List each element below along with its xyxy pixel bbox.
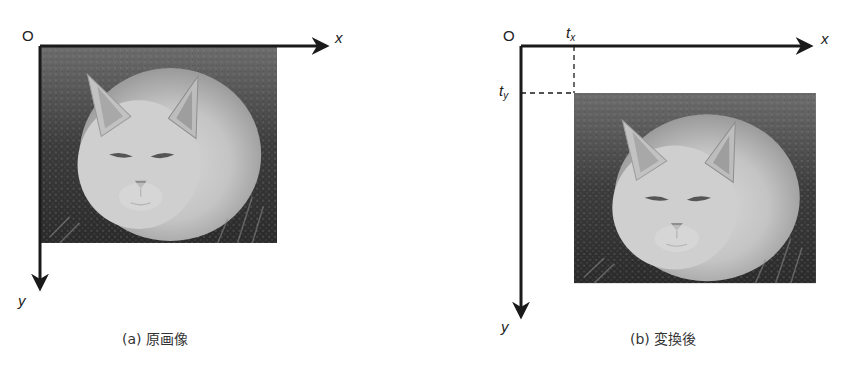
caption-b: (b) 変換後 bbox=[630, 328, 696, 348]
tx-label: tx bbox=[566, 24, 575, 43]
y-axis-label-a: y bbox=[18, 292, 26, 309]
original-cat-image bbox=[40, 46, 277, 243]
origin-label-b: O bbox=[503, 27, 515, 44]
panel-b bbox=[521, 46, 816, 316]
ty-label: ty bbox=[499, 82, 508, 101]
x-axis-label-b: x bbox=[821, 30, 829, 47]
y-axis-label-b: y bbox=[501, 318, 509, 335]
x-axis-label-a: x bbox=[335, 29, 343, 46]
ty-subscript: y bbox=[503, 90, 508, 101]
panel-a bbox=[40, 46, 326, 288]
origin-label-a: O bbox=[22, 27, 34, 44]
translation-diagram bbox=[0, 0, 842, 374]
translated-cat-image bbox=[574, 93, 816, 283]
caption-a: (a) 原画像 bbox=[122, 328, 188, 348]
tx-subscript: x bbox=[570, 32, 575, 43]
